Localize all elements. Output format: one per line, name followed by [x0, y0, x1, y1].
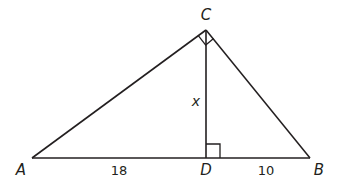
vertex-label-b: B — [314, 163, 324, 178]
vertex-label-a: A — [16, 163, 26, 178]
segment-label-ad: 18 — [111, 164, 128, 177]
side-cb — [206, 30, 310, 158]
segment-label-cd: x — [192, 94, 200, 108]
geometry-diagram: C A D B 18 10 x — [0, 0, 341, 186]
segment-label-db: 10 — [258, 164, 275, 177]
right-angle-mark-d — [206, 144, 220, 158]
side-ac — [32, 30, 206, 158]
vertex-label-d: D — [200, 163, 212, 178]
vertex-label-c: C — [201, 8, 211, 23]
triangle-figure — [0, 0, 341, 186]
